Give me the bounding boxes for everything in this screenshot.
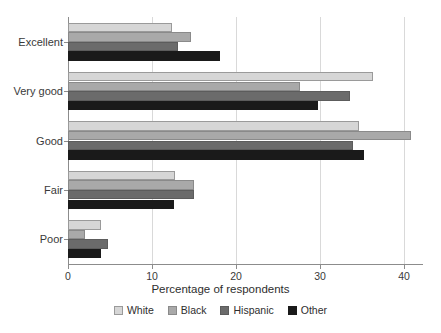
bar-very-good-white (68, 72, 373, 82)
bar-poor-other (68, 249, 101, 259)
legend-swatch-white (114, 306, 123, 315)
bar-very-good-black (68, 82, 300, 92)
bar-excellent-hispanic (68, 42, 178, 52)
bar-excellent-white (68, 23, 172, 33)
x-tick-mark-40 (404, 264, 405, 269)
bar-very-good-hispanic (68, 91, 350, 101)
gridline-40 (404, 17, 405, 264)
legend-label-black: Black (181, 304, 207, 316)
x-tick-mark-10 (152, 264, 153, 269)
legend-item-white[interactable]: White (114, 304, 154, 316)
bar-excellent-other (68, 51, 220, 61)
bar-fair-black (68, 180, 194, 190)
x-tick-label-30: 30 (314, 270, 326, 282)
bar-excellent-black (68, 32, 191, 42)
legend-swatch-other (288, 306, 297, 315)
legend-item-black[interactable]: Black (168, 304, 207, 316)
bar-fair-white (68, 171, 175, 181)
x-tick-mark-30 (320, 264, 321, 269)
legend-label-white: White (127, 304, 154, 316)
legend-swatch-black (168, 306, 177, 315)
bar-poor-white (68, 220, 101, 230)
legend-item-hispanic[interactable]: Hispanic (220, 304, 273, 316)
x-tick-mark-0 (68, 264, 69, 269)
bar-fair-other (68, 200, 174, 210)
legend-swatch-hispanic (220, 306, 229, 315)
bar-poor-hispanic (68, 239, 108, 249)
bar-good-black (68, 131, 411, 141)
x-tick-label-10: 10 (146, 270, 158, 282)
bar-good-other (68, 150, 364, 160)
x-tick-label-40: 40 (398, 270, 410, 282)
x-tick-label-0: 0 (65, 270, 71, 282)
legend-label-hispanic: Hispanic (233, 304, 273, 316)
category-label-fair: Fair (44, 184, 63, 196)
legend-item-other[interactable]: Other (288, 304, 327, 316)
x-tick-mark-20 (236, 264, 237, 269)
legend-label-other: Other (301, 304, 327, 316)
category-label-very-good: Very good (13, 85, 63, 97)
category-label-excellent: Excellent (18, 36, 63, 48)
x-axis-line (68, 264, 423, 265)
bar-fair-hispanic (68, 190, 194, 200)
bar-poor-black (68, 230, 85, 240)
category-label-good: Good (36, 135, 63, 147)
bar-good-hispanic (68, 141, 353, 151)
bar-very-good-other (68, 101, 318, 111)
chart-legend: WhiteBlackHispanicOther (0, 304, 441, 316)
bar-good-white (68, 121, 359, 131)
x-axis-title: Percentage of respondents (0, 283, 441, 295)
category-label-poor: Poor (40, 233, 63, 245)
bar-chart: 010203040 ExcellentVery goodGoodFairPoor… (0, 0, 441, 333)
x-tick-label-20: 20 (230, 270, 242, 282)
